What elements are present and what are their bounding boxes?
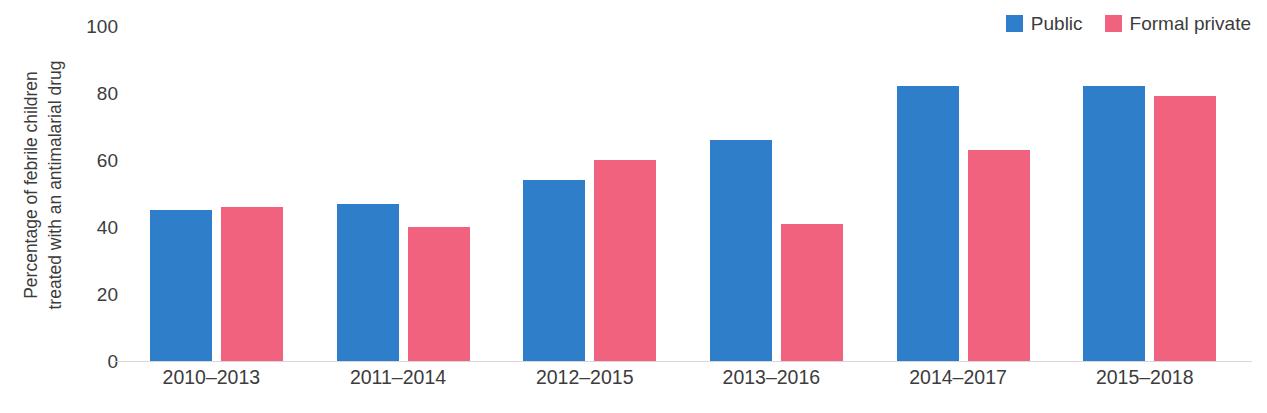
y-tick-40: 40 <box>74 218 118 237</box>
bar-private-2015–2018[interactable] <box>1154 96 1216 361</box>
bar-private-2014–2017[interactable] <box>968 150 1030 361</box>
plot-area <box>132 26 1252 361</box>
bar-private-2010–2013[interactable] <box>221 207 283 361</box>
y-tick-100: 100 <box>74 17 118 36</box>
x-label-cell: 2014–2017 <box>879 368 1066 408</box>
bar-groups <box>132 26 1252 361</box>
y-axis-title-line-2: treated with an antimalarial drug <box>43 60 67 309</box>
bar-public-2010–2013[interactable] <box>150 210 212 361</box>
x-label-cell: 2013–2016 <box>692 368 879 408</box>
bar-group-bars <box>505 26 692 361</box>
bar-group <box>692 26 879 361</box>
bar-group <box>319 26 506 361</box>
x-tick-label: 2011–2014 <box>350 366 446 388</box>
bar-chart: Public Formal private Percentage of febr… <box>0 0 1267 413</box>
y-tick-0: 0 <box>74 352 118 371</box>
bar-public-2012–2015[interactable] <box>523 180 585 361</box>
bar-group <box>132 26 319 361</box>
bar-group-bars <box>1065 26 1252 361</box>
x-label-cell: 2010–2013 <box>132 368 319 408</box>
x-label-cell: 2011–2014 <box>319 368 506 408</box>
bar-group <box>1065 26 1252 361</box>
y-axis-title-text: Percentage of febrile children treated w… <box>19 60 67 309</box>
bar-group-bars <box>879 26 1066 361</box>
x-tick-label: 2015–2018 <box>1096 366 1194 388</box>
bar-public-2015–2018[interactable] <box>1083 86 1145 361</box>
bar-public-2013–2016[interactable] <box>710 140 772 361</box>
x-tick-label: 2014–2017 <box>909 366 1007 388</box>
bar-private-2011–2014[interactable] <box>408 227 470 361</box>
x-axis-line <box>114 361 1252 362</box>
y-tick-20: 20 <box>74 285 118 304</box>
x-tick-label: 2010–2013 <box>163 366 261 388</box>
bar-public-2014–2017[interactable] <box>897 86 959 361</box>
x-tick-label: 2013–2016 <box>723 366 821 388</box>
y-tick-60: 60 <box>74 151 118 170</box>
bar-group-bars <box>692 26 879 361</box>
bar-public-2011–2014[interactable] <box>337 204 399 361</box>
bar-group-bars <box>319 26 506 361</box>
bar-group <box>879 26 1066 361</box>
y-axis-title-line-1: Percentage of febrile children <box>19 60 43 309</box>
bar-group-bars <box>132 26 319 361</box>
x-label-cell: 2015–2018 <box>1065 368 1252 408</box>
y-axis-ticks: 100 80 60 40 20 0 <box>74 26 118 361</box>
bar-group <box>505 26 692 361</box>
bar-private-2012–2015[interactable] <box>594 160 656 361</box>
x-label-cell: 2012–2015 <box>505 368 692 408</box>
bar-private-2013–2016[interactable] <box>781 224 843 361</box>
x-axis-labels: 2010–20132011–20142012–20152013–20162014… <box>132 368 1252 408</box>
x-tick-label: 2012–2015 <box>536 366 634 388</box>
y-tick-80: 80 <box>74 84 118 103</box>
